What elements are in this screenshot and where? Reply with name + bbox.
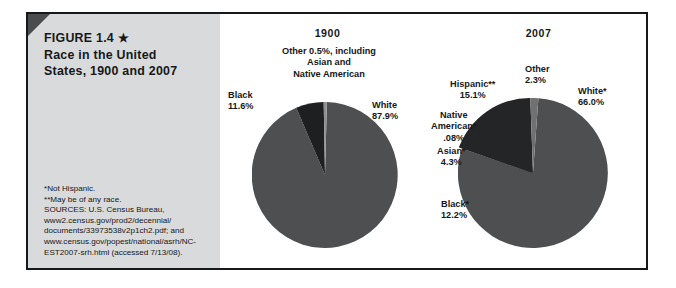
chart-2007-label-hispanic: Hispanic** 15.1% <box>450 79 495 102</box>
note-line-4: www2.census.gov/prod2/decennial/ <box>44 216 220 227</box>
chart-2007-label-native-american: Native American* .08% <box>431 110 476 144</box>
chart-2007-label-black: Black* 12.2% <box>441 199 469 222</box>
chart-2007-label-white: White* 66.0% <box>578 86 607 109</box>
chart-2007-label-native-line2: American* <box>431 121 476 132</box>
chart-2007-label-black-name: Black* <box>441 199 469 210</box>
chart-2007-label-native-value: .08% <box>431 133 476 144</box>
caption-panel: FIGURE 1.4 ★ Race in the United States, … <box>28 14 220 268</box>
chart-1900-title: 1900 <box>220 27 435 39</box>
chart-2007-label-white-value: 66.0% <box>578 97 607 108</box>
figure-root: FIGURE 1.4 ★ Race in the United States, … <box>0 0 676 288</box>
chart-1900-label-black-value: 11.6% <box>228 101 254 112</box>
note-line-5: documents/33973538v2p1ch2.pdf; and <box>44 226 220 237</box>
note-line-1: *Not Hispanic. <box>44 184 220 195</box>
chart-1900-label-black-name: Black <box>228 90 254 101</box>
chart-2007: 2007 <box>435 14 642 268</box>
chart-2007-label-white-name: White* <box>578 86 607 97</box>
charts-area: 1900 Other 0.5%, including Asian and Nat… <box>220 14 646 268</box>
chart-1900-label-other-line1: Other 0.5%, including <box>234 46 424 57</box>
chart-2007-label-native-line1: Native <box>431 110 476 121</box>
chart-2007-label-hispanic-value: 15.1% <box>450 90 495 101</box>
chart-2007-label-other: Other 2.3% <box>525 64 550 87</box>
chart-2007-label-asian-value: 4.3% <box>437 157 466 168</box>
figure-caption-title: FIGURE 1.4 ★ Race in the United States, … <box>44 30 212 80</box>
chart-1900-label-black: Black 11.6% <box>228 90 254 113</box>
chart-1900-label-white: White 87.9% <box>372 100 398 123</box>
chart-1900-label-white-value: 87.9% <box>372 111 398 122</box>
chart-2007-label-asian-name: Asian* <box>437 146 466 157</box>
chart-2007-title: 2007 <box>435 27 642 39</box>
figure-source-notes: *Not Hispanic. **May be of any race. SOU… <box>44 184 220 258</box>
caption-title-line-1: FIGURE 1.4 ★ <box>44 30 212 47</box>
figure-frame: FIGURE 1.4 ★ Race in the United States, … <box>26 12 648 270</box>
caption-title-line-3: States, 1900 and 2007 <box>44 63 212 80</box>
chart-2007-label-other-value: 2.3% <box>525 75 550 86</box>
note-line-7: EST2007-srh.html (accessed 7/13/08). <box>44 248 220 259</box>
chart-2007-pie <box>458 98 608 248</box>
chart-1900-label-other-line3: Native American <box>234 69 424 80</box>
chart-1900: 1900 Other 0.5%, including Asian and Nat… <box>220 14 435 268</box>
chart-2007-label-hispanic-name: Hispanic** <box>450 79 495 90</box>
chart-2007-label-other-name: Other <box>525 64 550 75</box>
pie-2007-svg <box>458 98 608 248</box>
note-line-6: www.census.gov/popest/national/asrh/NC- <box>44 237 220 248</box>
chart-1900-pie <box>252 102 398 248</box>
note-line-3: SOURCES: U.S. Census Bureau, <box>44 205 220 216</box>
pie-1900-svg <box>252 102 398 248</box>
note-line-2: **May be of any race. <box>44 195 220 206</box>
chart-2007-label-black-value: 12.2% <box>441 210 469 221</box>
chart-1900-label-other-line2: Asian and <box>234 57 424 68</box>
caption-title-line-2: Race in the United <box>44 47 212 64</box>
chart-1900-label-white-name: White <box>372 100 398 111</box>
chart-1900-label-other: Other 0.5%, including Asian and Native A… <box>234 46 424 80</box>
chart-2007-label-asian: Asian* 4.3% <box>437 146 466 169</box>
